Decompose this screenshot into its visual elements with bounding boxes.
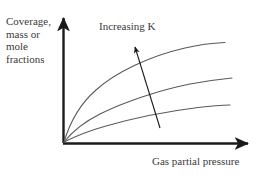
isotherm-curve-high-k (64, 43, 225, 143)
x-axis-label: Gas partial pressure (152, 155, 239, 168)
curves-group (64, 43, 232, 143)
increasing-k-annotation-label: Increasing K (99, 20, 156, 33)
isotherm-curve-low-k (64, 105, 230, 142)
adsorption-isotherm-figure: Coverage, mass or mole fractions Gas par… (0, 0, 270, 179)
y-axis-label: Coverage, mass or mole fractions (6, 15, 62, 65)
axes-group (63, 18, 248, 144)
